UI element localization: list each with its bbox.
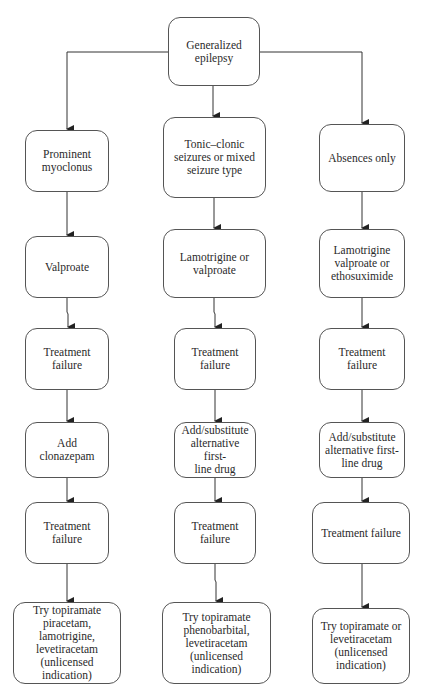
flowchart: Generalized epilepsy Prominent myoclonus… (0, 0, 429, 697)
node-col1-try-drugs: Try topiramate piracetam, lamotrigine, l… (13, 602, 121, 684)
node-col2-try-drugs: Try topiramate phenobarbital, levetirace… (162, 602, 271, 684)
edge-root-col3 (259, 52, 362, 123)
node-col3-try-drugs: Try topiramate or levetiracetam (unlicen… (312, 608, 410, 684)
node-lamotrigine-valproate-ethosuximide: Lamotrigine valproate or ethosuximide (319, 229, 405, 298)
node-tonic-clonic: Tonic–clonic seizures or mixed seizure t… (163, 117, 266, 198)
edge-root-col1 (67, 52, 168, 129)
node-col2-treatment-failure-2: Treatment failure (174, 502, 256, 564)
node-col3-add-substitute: Add/substitute alternative first- line d… (319, 422, 405, 478)
node-lamotrigine-or-valproate: Lamotrigine or valproate (163, 229, 266, 298)
node-col2-treatment-failure-1: Treatment failure (174, 328, 256, 390)
node-valproate: Valproate (25, 236, 109, 298)
node-col1-treatment-failure-1: Treatment failure (25, 328, 109, 390)
node-absences-only: Absences only (319, 124, 405, 192)
node-col3-treatment-failure-1: Treatment failure (319, 328, 405, 390)
node-generalized-epilepsy: Generalized epilepsy (168, 17, 260, 86)
node-col3-treatment-failure-2: Treatment failure (312, 502, 410, 564)
node-col2-add-substitute: Add/substitute alternative first- line d… (174, 422, 256, 478)
node-add-clonazepam: Add clonazepam (25, 422, 109, 478)
node-prominent-myoclonus: Prominent myoclonus (25, 130, 109, 192)
node-col1-treatment-failure-2: Treatment failure (25, 502, 109, 564)
